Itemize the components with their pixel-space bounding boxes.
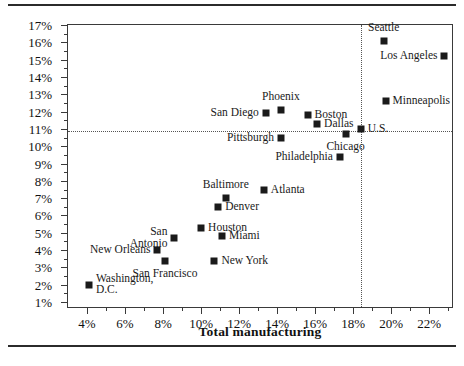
y-tick-6%: 6% — [61, 215, 68, 216]
y-tick-10%: 10% — [61, 146, 68, 147]
y-tick-label: 17% — [28, 19, 52, 32]
data-point-marker[interactable] — [380, 37, 387, 44]
x-tick-22% — [429, 307, 430, 314]
y-minor-tick — [64, 155, 68, 156]
data-point-label: Denver — [225, 201, 259, 213]
data-point-marker[interactable] — [154, 247, 161, 254]
x-tick-label: 14% — [265, 317, 289, 330]
y-minor-tick — [64, 293, 68, 294]
data-point-label: Baltimore — [203, 179, 249, 191]
scatter-chart-figure: Manufacturing — durables Total manufactu… — [0, 0, 464, 366]
data-point-marker[interactable] — [357, 125, 364, 132]
x-tick-8% — [163, 307, 164, 314]
data-point-marker[interactable] — [171, 235, 178, 242]
y-minor-tick — [64, 68, 68, 69]
y-tick-label: 12% — [28, 105, 52, 118]
y-minor-tick — [64, 276, 68, 277]
y-tick-label: 9% — [35, 157, 52, 170]
data-point-marker[interactable] — [304, 112, 311, 119]
top-rule — [8, 4, 456, 6]
data-point-marker[interactable] — [262, 110, 269, 117]
data-point-marker[interactable] — [314, 120, 321, 127]
x-tick-18% — [353, 307, 354, 314]
y-tick-label: 14% — [28, 70, 52, 83]
data-point-label: Atlanta — [271, 184, 305, 196]
y-tick-7%: 7% — [61, 198, 68, 199]
data-point-label: Seattle — [368, 22, 399, 34]
x-tick-6% — [125, 307, 126, 314]
x-tick-label: 22% — [417, 317, 441, 330]
data-point-marker[interactable] — [277, 106, 284, 113]
data-point-marker[interactable] — [198, 224, 205, 231]
y-minor-tick — [64, 224, 68, 225]
y-tick-label: 11% — [29, 122, 52, 135]
y-tick-label: 13% — [28, 88, 52, 101]
y-tick-label: 8% — [35, 174, 52, 187]
data-point-label: New Orleans — [90, 244, 150, 256]
x-tick-20% — [391, 307, 392, 314]
y-minor-tick — [64, 241, 68, 242]
bottom-rule — [8, 345, 456, 347]
y-tick-15%: 15% — [61, 60, 68, 61]
x-tick-label: 8% — [154, 317, 171, 330]
data-point-marker[interactable] — [441, 53, 448, 60]
x-minor-tick — [296, 307, 297, 311]
y-tick-label: 7% — [35, 192, 52, 205]
x-tick-4% — [87, 307, 88, 314]
x-minor-tick — [106, 307, 107, 311]
y-tick-label: 5% — [35, 226, 52, 239]
x-minor-tick — [182, 307, 183, 311]
y-tick-label: 16% — [28, 36, 52, 49]
y-tick-8%: 8% — [61, 181, 68, 182]
data-point-marker[interactable] — [336, 153, 343, 160]
data-point-marker[interactable] — [277, 134, 284, 141]
data-point-label: San Diego — [211, 107, 259, 119]
x-tick-label: 18% — [341, 317, 365, 330]
y-tick-3%: 3% — [61, 267, 68, 268]
x-tick-12% — [239, 307, 240, 314]
y-tick-14%: 14% — [61, 77, 68, 78]
data-point-marker[interactable] — [342, 131, 349, 138]
y-minor-tick — [64, 190, 68, 191]
y-tick-label: 6% — [35, 209, 52, 222]
y-tick-label: 15% — [28, 53, 52, 66]
x-tick-label: 10% — [189, 317, 213, 330]
data-point-marker[interactable] — [161, 257, 168, 264]
y-tick-13%: 13% — [61, 94, 68, 95]
y-tick-2%: 2% — [61, 285, 68, 286]
data-point-marker[interactable] — [215, 203, 222, 210]
data-point-label: U.S. — [368, 123, 388, 135]
x-tick-label: 12% — [227, 317, 251, 330]
y-minor-tick — [64, 103, 68, 104]
data-point-label: Washington, D.C. — [96, 273, 154, 296]
x-tick-14% — [277, 307, 278, 314]
x-minor-tick — [144, 307, 145, 311]
x-minor-tick — [220, 307, 221, 311]
x-minor-tick — [448, 307, 449, 311]
y-tick-16%: 16% — [61, 42, 68, 43]
y-tick-12%: 12% — [61, 112, 68, 113]
y-minor-tick — [64, 207, 68, 208]
x-tick-label: 4% — [78, 317, 95, 330]
y-tick-label: 1% — [35, 296, 52, 309]
data-point-label: New York — [221, 255, 268, 267]
y-tick-label: 2% — [35, 278, 52, 291]
data-point-label: Philadelphia — [275, 151, 333, 163]
y-minor-tick — [64, 51, 68, 52]
x-tick-10% — [201, 307, 202, 314]
data-point-marker[interactable] — [85, 281, 92, 288]
data-point-marker[interactable] — [260, 186, 267, 193]
data-point-marker[interactable] — [382, 98, 389, 105]
x-minor-tick — [258, 307, 259, 311]
data-point-label: Phoenix — [262, 91, 300, 103]
x-minor-tick — [334, 307, 335, 311]
y-tick-label: 4% — [35, 244, 52, 257]
y-tick-11%: 11% — [61, 129, 68, 130]
y-minor-tick — [64, 138, 68, 139]
x-tick-label: 16% — [303, 317, 327, 330]
data-point-label: Pittsburgh — [227, 132, 274, 144]
data-point-marker[interactable] — [219, 233, 226, 240]
data-point-label: Los Angeles — [380, 50, 437, 62]
y-minor-tick — [64, 120, 68, 121]
data-point-marker[interactable] — [211, 257, 218, 264]
